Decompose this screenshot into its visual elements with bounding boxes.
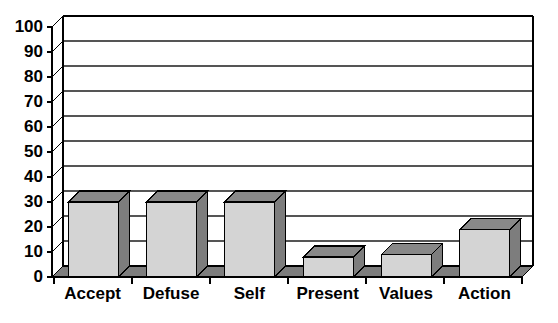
y-axis-label: 80 <box>24 67 43 86</box>
bar-top-face <box>147 191 208 202</box>
y-axis-label: 30 <box>24 192 43 211</box>
bar-top-face <box>382 244 443 255</box>
tick-connector <box>52 216 63 227</box>
tick-connector <box>52 41 63 52</box>
bar-top-face <box>68 191 129 202</box>
x-axis-ticks <box>54 277 522 284</box>
y-axis-label: 10 <box>24 242 43 261</box>
tick-connector <box>52 66 63 77</box>
bar-side-face <box>118 191 129 277</box>
x-axis-label: Action <box>458 284 511 303</box>
bar-present <box>303 246 364 277</box>
bar-front-face <box>147 202 197 277</box>
bar-accept <box>68 191 129 277</box>
y-axis-label: 60 <box>24 117 43 136</box>
bar-front-face <box>68 202 118 277</box>
x-axis-label: Present <box>296 284 359 303</box>
bar-side-face <box>197 191 208 277</box>
y-axis-label: 100 <box>15 17 43 36</box>
bar-front-face <box>225 202 275 277</box>
axis-depth-wall <box>52 16 63 277</box>
tick-connector <box>52 91 63 102</box>
y-axis-label: 0 <box>34 267 43 286</box>
x-axis-labels: AcceptDefuseSelfPresentValuesAction <box>64 284 510 303</box>
bar-top-face <box>303 246 364 257</box>
y-axis-label: 50 <box>24 142 43 161</box>
bar-values <box>382 244 443 278</box>
bar-action <box>460 219 521 278</box>
bar-front-face <box>382 255 432 278</box>
bar-top-face <box>460 219 521 230</box>
bar-side-face <box>275 191 286 277</box>
bar-top-face <box>225 191 286 202</box>
y-axis-label: 40 <box>24 167 43 186</box>
x-axis-label: Values <box>379 284 433 303</box>
y-axis-label: 90 <box>24 42 43 61</box>
bar-front-face <box>303 257 353 277</box>
x-axis-label: Accept <box>64 284 121 303</box>
tick-connector <box>52 141 63 152</box>
chart-canvas: 0102030405060708090100AcceptDefuseSelfPr… <box>0 0 558 323</box>
bar-self <box>225 191 286 277</box>
y-axis-label: 70 <box>24 92 43 111</box>
tick-connector <box>52 241 63 252</box>
y-axis-labels: 0102030405060708090100 <box>15 17 43 286</box>
x-axis-label: Self <box>234 284 266 303</box>
tick-connector <box>52 191 63 202</box>
bar-defuse <box>147 191 208 277</box>
tick-connector <box>52 116 63 127</box>
tick-connector <box>52 16 63 27</box>
bar-chart: 0102030405060708090100AcceptDefuseSelfPr… <box>0 0 558 323</box>
tick-connector <box>52 166 63 177</box>
x-axis-label: Defuse <box>143 284 200 303</box>
y-axis-label: 20 <box>24 217 43 236</box>
bar-front-face <box>460 230 510 278</box>
